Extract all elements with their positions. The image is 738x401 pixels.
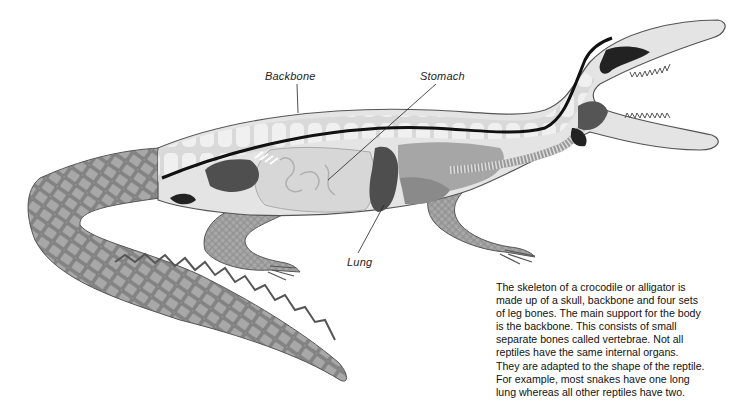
backbone-leader: [297, 84, 298, 113]
caption-line: is the backbone. This consists of small: [496, 320, 736, 333]
caption-line: They are adapted to the shape of the rep…: [496, 360, 736, 373]
caption-line: reptiles have the same internal organs.: [496, 346, 736, 359]
caption-line: made up of a skull, backbone and four se…: [496, 294, 736, 307]
caption-line: lung whereas all other reptiles have two…: [496, 386, 736, 399]
lung-leader: [358, 205, 384, 253]
caption-line: of leg bones. The main support for the b…: [496, 307, 736, 320]
caption-line: separate bones called vertebrae. Not all: [496, 333, 736, 346]
label-stomach: Stomach: [420, 70, 465, 82]
caption-line: The skeleton of a crocodile or alligator…: [496, 281, 736, 294]
hind-leg: [204, 208, 300, 280]
caption-line: For example, most snakes have one long: [496, 373, 736, 386]
fore-leg: [428, 190, 535, 264]
caption-text: The skeleton of a crocodile or alligator…: [496, 281, 736, 399]
body-cutaway: [158, 20, 725, 216]
label-lung: Lung: [347, 256, 372, 268]
label-backbone: Backbone: [265, 70, 316, 82]
